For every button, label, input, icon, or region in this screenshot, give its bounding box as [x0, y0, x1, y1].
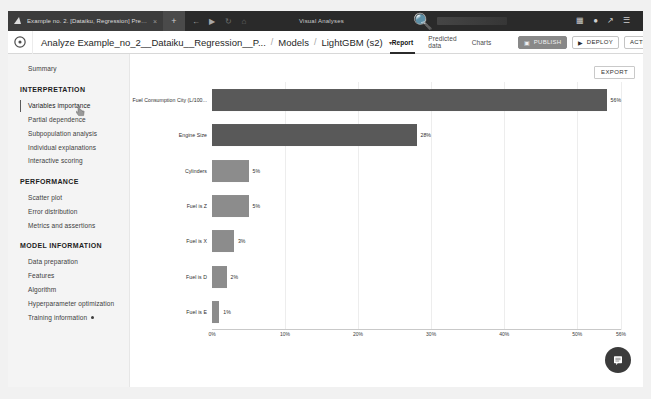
chart-bar-value-label: 1% [223, 309, 231, 315]
browser-chrome: Example no. 2. [Dataiku, Regression] Pre… [8, 11, 643, 31]
chart-bar[interactable] [212, 230, 234, 252]
sidebar-item-subpopulation-analysis[interactable]: Subpopulation analysis [8, 126, 129, 140]
variables-importance-chart: Fuel Consumption City (L/100...56%Engine… [130, 80, 643, 348]
forward-arrow-icon[interactable]: ▶ [207, 17, 217, 26]
app-action-buttons: ▣ PUBLISH ▶ DEPLOY ACTIONS ▾ [518, 36, 651, 49]
chart-bar-value-label: 3% [238, 238, 246, 244]
chart-bar[interactable] [212, 160, 249, 182]
deploy-button[interactable]: ▶ DEPLOY [572, 36, 618, 49]
chart-bar-category-label: Cylinders [185, 168, 207, 174]
export-row: EXPORT [594, 60, 635, 79]
sidebar-item-label: Training information [28, 314, 87, 321]
chart-bar-row[interactable]: Fuel Consumption City (L/100...56% [212, 82, 621, 117]
dataiku-logo-icon[interactable] [8, 31, 33, 54]
publish-button[interactable]: ▣ PUBLISH [518, 36, 567, 49]
chart-x-tick-label: 0% [208, 331, 215, 337]
address-bar[interactable]: Visual Analyses [299, 18, 344, 24]
deploy-button-label: DEPLOY [587, 39, 613, 45]
chart-bar[interactable] [212, 124, 417, 146]
account-icon[interactable]: ● [593, 17, 598, 25]
page-margin-right [643, 0, 651, 399]
main-panel: EXPORT Fuel Consumption City (L/100...56… [130, 54, 643, 387]
breadcrumb-item-analysis[interactable]: Analyze Example_no_2__Dataiku__Regressio… [41, 37, 266, 48]
browser-search-area[interactable]: 🔍 [413, 12, 507, 31]
breadcrumb-separator: / [314, 37, 317, 47]
browser-tab[interactable]: Example no. 2. [Dataiku, Regression] Pre… [8, 11, 163, 31]
chart-plot-area: Fuel Consumption City (L/100...56%Engine… [212, 82, 621, 330]
new-tab-button[interactable]: + [163, 11, 185, 31]
home-icon[interactable]: ⌂ [239, 17, 249, 26]
breadcrumb: Analyze Example_no_2__Dataiku__Regressio… [33, 37, 392, 48]
apps-grid-icon[interactable]: ▦ [576, 17, 584, 25]
sidebar-heading-model-information: MODEL INFORMATION [8, 242, 129, 249]
close-icon[interactable]: × [153, 18, 157, 25]
chart-bar[interactable] [212, 89, 607, 111]
chart-bar-row[interactable]: Engine Size28% [212, 117, 621, 152]
sidebar-item-individual-explanations[interactable]: Individual explanations [8, 140, 129, 154]
browser-navbar: ← ▶ ↻ ⌂ Visual Analyses 🔍 ▦ ● ↗ ☰ [185, 11, 643, 31]
breadcrumb-separator: / [271, 37, 274, 47]
chart-bar-row[interactable]: Fuel is Z5% [212, 188, 621, 223]
chart-x-tick-label: 20% [353, 331, 363, 337]
sidebar-heading-interpretation: INTERPRETATION [8, 86, 129, 93]
page-margin-left [0, 0, 8, 399]
reload-icon[interactable]: ↻ [223, 17, 233, 26]
sidebar-item-error-distribution[interactable]: Error distribution [8, 204, 129, 218]
sidebar: Summary INTERPRETATION Variables importa… [8, 54, 130, 387]
sidebar-item-variables-importance[interactable]: Variables importance [8, 99, 129, 113]
menu-icon[interactable]: ☰ [623, 17, 630, 25]
publish-icon: ▣ [524, 39, 530, 46]
search-input[interactable] [437, 17, 507, 25]
chart-bar-category-label: Fuel is D [186, 274, 207, 280]
content-area: Summary INTERPRETATION Variables importa… [8, 54, 643, 387]
sidebar-item-summary[interactable]: Summary [8, 62, 129, 76]
chart-bar[interactable] [212, 195, 249, 217]
app-top-bar: Analyze Example_no_2__Dataiku__Regressio… [8, 31, 643, 54]
chart-bar-category-label: Fuel is X [186, 238, 207, 244]
sidebar-heading-performance: PERFORMANCE [8, 178, 129, 185]
chat-bubble-icon[interactable] [605, 347, 631, 373]
app-tabs: Report Predicted data Charts ▣ PUBLISH ▶… [392, 31, 651, 54]
chart-bar-value-label: 56% [611, 97, 621, 103]
chart-x-tick-label: 50% [572, 331, 582, 337]
chart-bar-category-label: Fuel Consumption City (L/100... [133, 97, 208, 103]
chart-bar-row[interactable]: Cylinders5% [212, 153, 621, 188]
tab-charts[interactable]: Charts [472, 31, 492, 54]
chart-x-tick-label: 40% [499, 331, 509, 337]
breadcrumb-item-models[interactable]: Models [278, 37, 309, 48]
sidebar-item-algorithm[interactable]: Algorithm [8, 283, 129, 297]
tab-report[interactable]: Report [392, 31, 414, 54]
browser-toolbar-icons: ▦ ● ↗ ☰ [576, 17, 637, 25]
chart-x-axis-ticks: 0%10%20%30%40%50%56% [212, 331, 621, 340]
sidebar-item-scatter-plot[interactable]: Scatter plot [8, 191, 129, 205]
chart-gridline [621, 82, 622, 330]
export-button[interactable]: EXPORT [594, 66, 635, 79]
chart-bar-value-label: 5% [253, 203, 261, 209]
tab-favicon-icon [13, 16, 23, 26]
chart-x-axis-line [212, 329, 621, 330]
chart-bar-row[interactable]: Fuel is X3% [212, 224, 621, 259]
chart-bar-category-label: Fuel is Z [187, 203, 207, 209]
chart-bar-value-label: 28% [421, 132, 431, 138]
back-arrow-icon[interactable]: ← [191, 17, 201, 26]
page-margin-bottom [0, 387, 651, 399]
breadcrumb-item-model[interactable]: LightGBM (s2) [321, 37, 382, 48]
sidebar-item-hyperparameter-optimization[interactable]: Hyperparameter optimization [8, 296, 129, 310]
sidebar-item-data-preparation[interactable]: Data preparation [8, 255, 129, 269]
sidebar-item-metrics-and-assertions[interactable]: Metrics and assertions [8, 218, 129, 232]
page-margin-top [0, 0, 651, 11]
search-icon[interactable]: 🔍 [413, 12, 433, 31]
tab-predicted-data[interactable]: Predicted data [428, 31, 456, 54]
chart-x-tick-label: 56% [616, 331, 626, 337]
chart-bar[interactable] [212, 266, 227, 288]
chart-bar-row[interactable]: Fuel is E1% [212, 295, 621, 330]
sidebar-item-partial-dependence[interactable]: Partial dependence [8, 113, 129, 127]
chart-bar[interactable] [212, 301, 219, 323]
sidebar-item-features[interactable]: Features [8, 269, 129, 283]
chart-bar-row[interactable]: Fuel is D2% [212, 259, 621, 294]
chart-bar-category-label: Fuel is E [186, 309, 207, 315]
screen-root: Example no. 2. [Dataiku, Regression] Pre… [0, 0, 651, 399]
activity-icon[interactable]: ↗ [607, 17, 614, 25]
sidebar-item-training-information[interactable]: Training information [8, 310, 129, 324]
sidebar-item-interactive-scoring[interactable]: Interactive scoring [8, 154, 129, 168]
